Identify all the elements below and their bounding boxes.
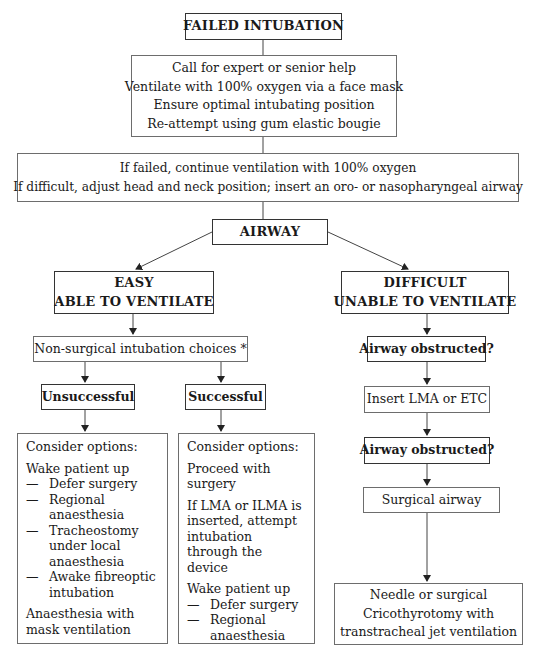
continue-ventilation-box: If failed, continue ventilation with 100… xyxy=(17,153,519,202)
instruction-line: If difficult, adjust head and neck posit… xyxy=(13,178,523,197)
consider-options-header: Consider options: xyxy=(187,439,299,455)
option-text: Awake fibreoptic intubation xyxy=(49,569,159,600)
option-text: Defer surgery xyxy=(210,597,298,613)
difficult-label: DIFFICULT xyxy=(383,274,466,293)
easy-label: EASY xyxy=(114,274,153,293)
final-line: Needle or surgical xyxy=(370,586,487,605)
surgical-airway-box: Surgical airway xyxy=(363,487,500,513)
dash-bullet: — xyxy=(26,523,49,570)
action-line: Ventilate with 100% oxygen via a face ma… xyxy=(125,78,403,97)
wake-patient-up: Wake patient up xyxy=(26,461,129,477)
airway-obstructed-label: Airway obstructed? xyxy=(360,441,494,460)
surgical-airway-label: Surgical airway xyxy=(382,491,482,510)
lma-intubation-note: If LMA or ILMA is inserted, attempt intu… xyxy=(187,498,306,576)
option-text: Defer surgery xyxy=(49,476,137,492)
option-item: — Defer surgery xyxy=(26,476,137,492)
airway-label: AIRWAY xyxy=(240,223,300,242)
unsuccessful-label: Unsuccessful xyxy=(42,388,135,407)
final-line: Cricothyrotomy with xyxy=(363,605,494,624)
failed-intubation-box: FAILED INTUBATION xyxy=(185,13,342,40)
difficult-ventilate-box: DIFFICULT UNABLE TO VENTILATE xyxy=(341,271,509,314)
option-item: — Awake fibreoptic intubation xyxy=(26,569,159,600)
action-line: Ensure optimal intubating position xyxy=(154,96,375,115)
able-to-ventilate-label: ABLE TO VENTILATE xyxy=(54,293,213,312)
dash-bullet: — xyxy=(26,492,49,523)
dash-bullet: — xyxy=(187,597,210,613)
successful-options-box: Consider options: Proceed with surgery I… xyxy=(178,433,315,644)
dash-bullet: — xyxy=(187,612,210,643)
instruction-line: If failed, continue ventilation with 100… xyxy=(120,159,417,178)
non-surgical-label: Non-surgical intubation choices * xyxy=(34,340,246,359)
dash-bullet: — xyxy=(26,476,49,492)
failed-intubation-title: FAILED INTUBATION xyxy=(183,17,344,36)
unsuccessful-options-box: Consider options: Wake patient up — Defe… xyxy=(17,433,168,644)
easy-ventilate-box: EASY ABLE TO VENTILATE xyxy=(54,271,214,314)
mask-ventilation-option: Anaesthesia with mask ventilation xyxy=(26,606,159,637)
airway-obstructed-label: Airway obstructed? xyxy=(359,340,493,359)
unsuccessful-box: Unsuccessful xyxy=(41,384,135,410)
option-text: Regional anaesthesia xyxy=(49,492,149,523)
final-line: transtracheal jet ventilation xyxy=(340,623,517,642)
non-surgical-choices-box: Non-surgical intubation choices * xyxy=(33,336,248,362)
option-item: — Regional anaesthesia xyxy=(187,612,300,643)
action-line: Call for expert or senior help xyxy=(172,59,356,78)
consider-options-header: Consider options: xyxy=(26,439,138,455)
insert-lma-label: Insert LMA or ETC xyxy=(367,390,487,409)
action-line: Re-attempt using gum elastic bougie xyxy=(147,115,380,134)
unable-to-ventilate-label: UNABLE TO VENTILATE xyxy=(334,293,517,312)
dash-bullet: — xyxy=(26,569,49,600)
airway-obstructed-box-2: Airway obstructed? xyxy=(364,437,490,464)
option-item: — Defer surgery xyxy=(187,597,298,613)
successful-label: Successful xyxy=(188,388,263,407)
initial-actions-box: Call for expert or senior help Ventilate… xyxy=(131,55,397,137)
airway-obstructed-box-1: Airway obstructed? xyxy=(367,336,486,362)
cricothyrotomy-box: Needle or surgical Cricothyrotomy with t… xyxy=(334,583,523,645)
proceed-with-surgery: Proceed with surgery xyxy=(187,461,306,492)
airway-decision-box: AIRWAY xyxy=(212,219,328,245)
option-text: Regional anaesthesia xyxy=(210,612,300,643)
option-item: — Regional anaesthesia xyxy=(26,492,149,523)
wake-patient-up: Wake patient up xyxy=(187,581,290,597)
option-text: Tracheostomy under local anaesthesia xyxy=(49,523,149,570)
successful-box: Successful xyxy=(185,384,266,410)
option-item: — Tracheostomy under local anaesthesia xyxy=(26,523,149,570)
insert-lma-box: Insert LMA or ETC xyxy=(364,386,490,413)
